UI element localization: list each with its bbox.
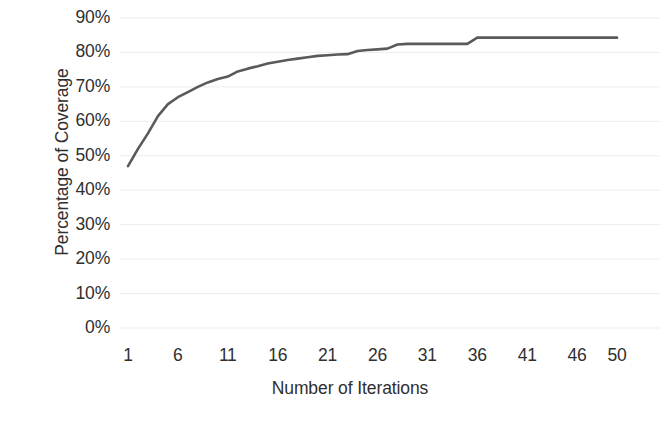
x-tick-label: 1: [123, 347, 133, 365]
series-line-coverage: [128, 38, 617, 166]
x-tick-label: 26: [368, 347, 387, 365]
y-gridlines: [120, 18, 660, 328]
x-tick-label: 50: [607, 347, 626, 365]
x-tick-label: 16: [268, 347, 287, 365]
x-axis-title: Number of Iterations: [0, 378, 666, 399]
data-series-group: [128, 38, 617, 166]
x-tick-label: 6: [173, 347, 183, 365]
x-axis-title-text: Number of Iterations: [272, 378, 429, 398]
x-tick-label: 11: [219, 347, 237, 365]
x-axis-tick-labels: 16111621263136414650: [0, 347, 666, 373]
x-tick-label: 21: [318, 347, 337, 365]
x-tick-label: 36: [468, 347, 487, 365]
x-tick-label: 41: [518, 347, 537, 365]
x-tick-label: 46: [568, 347, 587, 365]
x-tick-label: 31: [418, 347, 437, 365]
coverage-line-chart: Percentage of Coverage 90%80%70%60%50%40…: [0, 0, 666, 425]
